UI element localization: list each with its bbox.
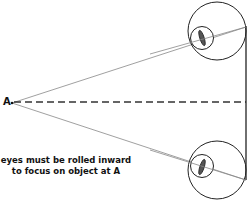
point-a-label: A [3,96,11,107]
point-a-marker [11,102,14,105]
caption-line-2: to focus on object at A [0,166,132,177]
caption: eyes must be rolled inward to focus on o… [0,155,132,177]
eye-convergence-diagram: A eyes must be rolled inward to focus on… [0,0,252,201]
caption-line-1: eyes must be rolled inward [0,155,132,166]
bottom-eye-icon [150,141,246,199]
top-eye-icon [150,2,246,60]
